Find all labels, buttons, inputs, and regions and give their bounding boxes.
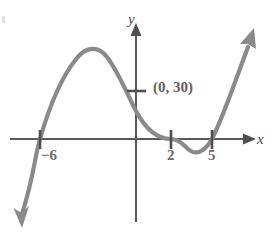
cubic-graph-figure: y x −6 2 5 (0, 30)	[0, 0, 273, 234]
curve-arrowhead-bottom-left	[14, 206, 30, 228]
x-axis-arrowhead	[243, 134, 256, 145]
plot-canvas	[0, 0, 273, 234]
point-label-y-intercept: (0, 30)	[153, 80, 193, 95]
tick-label-five: 5	[208, 148, 216, 163]
x-axis-label: x	[257, 132, 264, 147]
tick-label-neg-six: −6	[41, 148, 57, 163]
y-axis-label: y	[128, 12, 135, 27]
tick-label-two: 2	[167, 148, 175, 163]
